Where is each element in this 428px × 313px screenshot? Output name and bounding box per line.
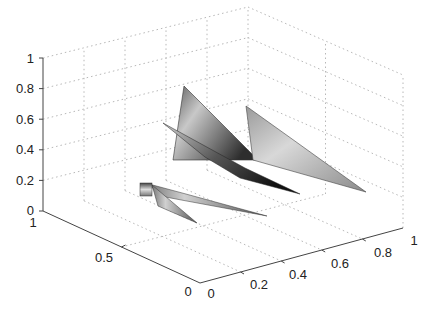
surfaces [140, 86, 366, 223]
z-tick-label: 0.4 [16, 142, 34, 157]
z-tick-label: 0.2 [16, 173, 34, 188]
x-tick-label: 0.8 [374, 245, 392, 260]
x-tick-labels: 0 0.2 0.4 0.6 0.8 1 [207, 233, 417, 301]
x-tick-label: 1 [410, 233, 417, 248]
y-tick-label: 0 [184, 284, 191, 299]
axes [39, 58, 403, 283]
z-tick-label: 0.8 [16, 81, 34, 96]
z-tick-labels: 1 0.8 0.6 0.4 0.2 0 [16, 51, 34, 218]
x-tick-label: 0.4 [289, 267, 307, 282]
z-tick-label: 1 [27, 51, 34, 66]
3d-surface-plot: 1 0.8 0.6 0.4 0.2 0 1 0.5 0 0 0.2 0.4 0.… [0, 0, 428, 313]
x-tick-label: 0.2 [250, 277, 268, 292]
y-tick-label: 1 [29, 215, 36, 230]
x-tick-label: 0 [207, 286, 214, 301]
large-triangle-surface [173, 86, 258, 160]
small-cylinder-surface [140, 183, 152, 196]
x-tick-label: 0.6 [331, 256, 349, 271]
y-tick-label: 0.5 [95, 250, 113, 265]
z-tick-label: 0.6 [16, 112, 34, 127]
y-tick-labels: 1 0.5 0 [29, 215, 191, 299]
